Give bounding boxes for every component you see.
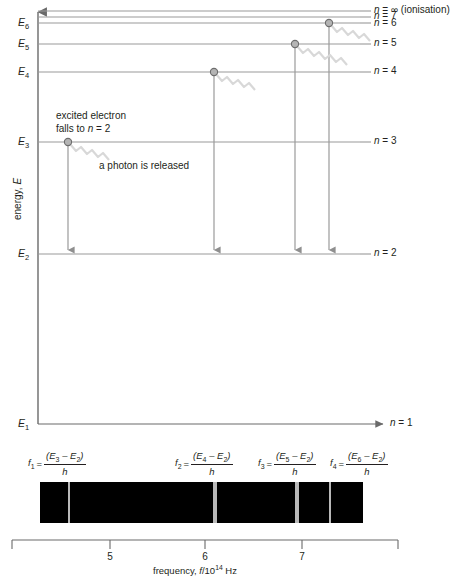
energy-label-E1: E1 (18, 418, 29, 432)
energy-label-E6: E6 (18, 17, 29, 31)
energy-label-E3: E3 (18, 136, 29, 150)
photon-wave-icon-1 (70, 144, 109, 160)
energy-label-E4: E4 (18, 66, 29, 80)
level-label-n-1: n = 1 (390, 418, 413, 428)
energy-label-E5: E5 (18, 38, 29, 52)
photon-wave-icon-4 (331, 25, 370, 41)
annotation-excited-electron-line1: excited electron (56, 110, 126, 123)
frequency-tick-5: 5 (100, 551, 120, 562)
level-label-connectors (360, 11, 371, 254)
frequency-formula-f4: f4 = (E6 – E2) h (330, 450, 388, 477)
frequency-tick-7: 7 (292, 551, 312, 562)
electron-dot-E5 (291, 40, 298, 47)
transition-arrows (68, 23, 329, 250)
y-axis-title: energy, E (12, 178, 23, 220)
spectrum-line-f2 (213, 482, 217, 523)
spectrum-line-f4 (329, 482, 331, 523)
electron-dot-E4 (210, 68, 217, 75)
photon-wave-icon-2 (216, 74, 255, 90)
spectrum-line-f3 (295, 482, 299, 523)
level-label-n-6: n = 6 (374, 18, 397, 28)
level-label-n-2: n = 2 (374, 248, 397, 258)
annotation-excited-electron: excited electron falls to n = 2 (56, 110, 126, 135)
spectrum-line-f1 (68, 482, 70, 523)
electron-dot-E3 (64, 138, 71, 145)
annotation-photon-released: a photon is released (99, 160, 189, 173)
frequency-formula-f3: f3 = (E5 – E2) h (258, 450, 316, 477)
emission-spectrum-band (40, 482, 363, 523)
photon-wave-icon-3 (297, 46, 347, 65)
electron-dot-E6 (325, 19, 332, 26)
level-label-n-4: n = 4 (374, 66, 397, 76)
level-label-n-3: n = 3 (374, 136, 397, 146)
level-label-n-5: n = 5 (374, 38, 397, 48)
frequency-tick-6: 6 (195, 551, 215, 562)
figure-root: E6 E5 E4 E3 E2 E1 energy, E n = ∞ (ionis… (0, 0, 451, 578)
energy-label-E2: E2 (18, 248, 29, 262)
frequency-formula-f1: f1 = (E3 – E2) h (28, 450, 86, 477)
frequency-axis-caption: frequency, f/1014 Hz (153, 564, 237, 576)
frequency-formula-f2: f2 = (E4 – E2) h (175, 450, 233, 477)
photon-wave-icons (70, 25, 370, 160)
frequency-axis (12, 540, 398, 549)
annotation-excited-electron-line2: falls to n = 2 (56, 123, 126, 136)
